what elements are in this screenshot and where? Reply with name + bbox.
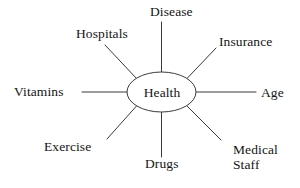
node-label-vitamins: Vitamins (14, 84, 64, 99)
node-label-drugs: Drugs (145, 156, 179, 171)
node-label-medical-staff: Medical Staff (233, 142, 278, 172)
connector-line-hospitals (105, 45, 137, 79)
node-label-hospitals: Hospitals (76, 26, 128, 41)
node-label-disease: Disease (150, 4, 193, 19)
node-label-exercise: Exercise (44, 139, 91, 154)
concept-map-diagram: Health Disease Hospitals Insurance Vitam… (0, 0, 300, 188)
node-label-age: Age (261, 85, 284, 100)
connector-line-exercise (107, 106, 137, 139)
node-label-insurance: Insurance (219, 34, 272, 49)
center-node-label: Health (127, 85, 197, 100)
connector-line-medical-staff (187, 106, 221, 140)
connector-line-insurance (187, 48, 216, 79)
